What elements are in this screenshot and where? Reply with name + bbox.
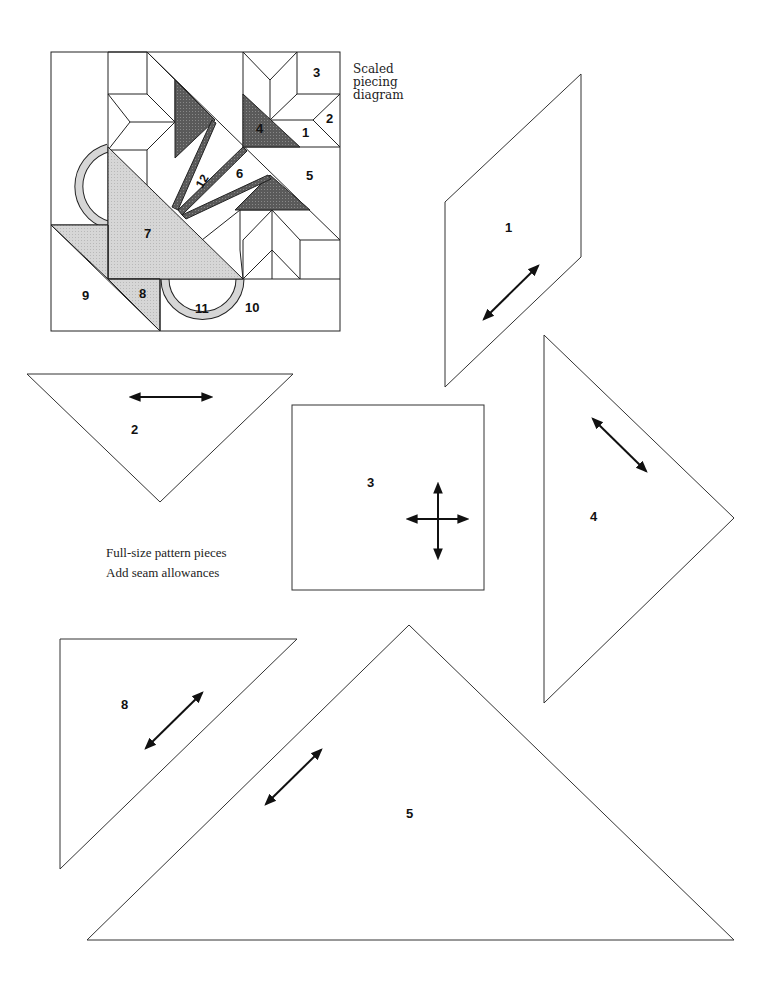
label-4: 4	[256, 121, 264, 136]
piece-4-label: 4	[590, 509, 598, 524]
label-7: 7	[144, 226, 151, 241]
label-6: 6	[236, 166, 243, 181]
note-full-size: Full-size pattern pieces	[106, 543, 227, 563]
label-10: 10	[245, 300, 259, 315]
note-seam-allowances: Add seam allowances	[106, 563, 227, 583]
piece-8-label: 8	[121, 697, 128, 712]
diagram-caption: Scaled piecing diagram	[353, 63, 404, 102]
pattern-notes: Full-size pattern pieces Add seam allowa…	[106, 543, 227, 583]
scaled-piecing-diagram: 3 2 1 4 6 5 12 7 9 8 11 10	[51, 52, 340, 331]
pattern-piece-1: 1	[445, 74, 581, 387]
label-2: 2	[326, 111, 333, 126]
piece-1-label: 1	[505, 220, 512, 235]
label-1: 1	[302, 125, 309, 140]
label-9: 9	[82, 288, 89, 303]
label-11: 11	[195, 301, 209, 316]
label-5: 5	[306, 168, 313, 183]
piece-2-label: 2	[131, 422, 138, 437]
piece-5-label: 5	[406, 806, 413, 821]
pattern-piece-2: 2	[27, 374, 293, 502]
pattern-piece-3: 3	[292, 405, 484, 590]
caption-line: diagram	[353, 89, 404, 102]
pattern-sheet: 3 2 1 4 6 5 12 7 9 8 11 10 1 2 3	[0, 0, 774, 993]
pattern-piece-4: 4	[544, 335, 734, 703]
label-3: 3	[313, 65, 320, 80]
label-8: 8	[139, 286, 146, 301]
piece-3-label: 3	[367, 475, 374, 490]
